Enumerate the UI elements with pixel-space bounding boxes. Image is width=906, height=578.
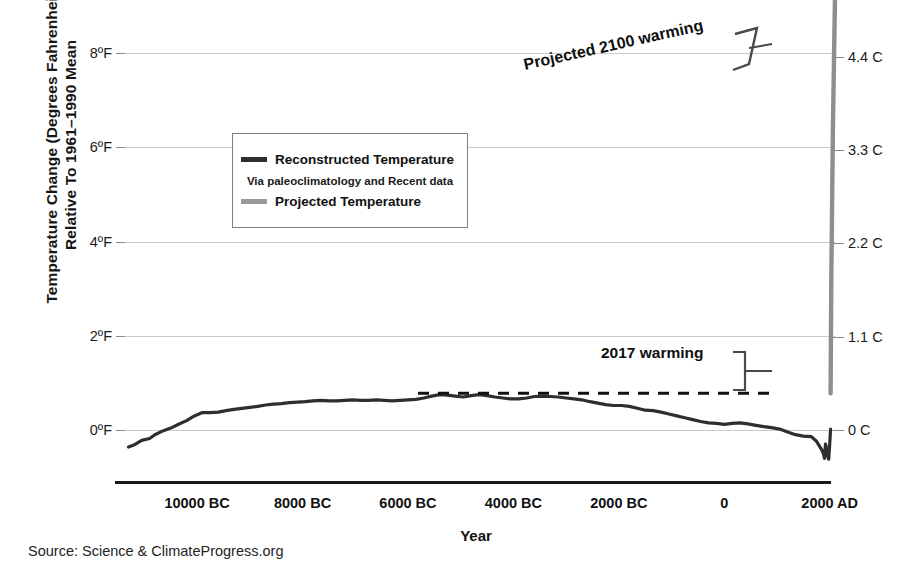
legend-entry-projected: Projected Temperature xyxy=(241,191,459,213)
legend-swatch-projected-icon xyxy=(241,199,267,204)
x-tick-label: 8000 BC xyxy=(274,495,331,511)
chart-page: Temperature Change (Degrees Fahrenheit) … xyxy=(0,0,906,578)
legend-label-projected: Projected Temperature xyxy=(275,194,421,209)
x-axis-title-text: Year xyxy=(414,527,492,544)
source-caption: Source: Science & ClimateProgress.org xyxy=(28,543,283,559)
x-tick-label: 2000 BC xyxy=(590,495,647,511)
legend-swatch-reconstructed-icon xyxy=(241,157,267,162)
x-axis-title: Year xyxy=(0,527,906,544)
x-tick-label: 10000 BC xyxy=(164,495,229,511)
bracket-2100-warming xyxy=(733,28,757,70)
plot-area xyxy=(0,0,906,578)
chart-legend: Reconstructed Temperature Via paleoclima… xyxy=(232,133,468,228)
projected-temperature-line xyxy=(831,0,835,393)
legend-label-reconstructed: Reconstructed Temperature xyxy=(275,152,454,167)
legend-note-reconstructed: Via paleoclimatology and Recent data xyxy=(241,171,459,191)
reconstructed-temperature-line xyxy=(129,395,831,460)
annotation-2017-warming: 2017 warming xyxy=(601,344,704,362)
x-axis-line xyxy=(115,481,831,484)
x-tick-label: 4000 BC xyxy=(485,495,542,511)
x-tick-label: 6000 BC xyxy=(379,495,436,511)
x-tick-label: 0 xyxy=(720,495,728,511)
bracket-2017-warming xyxy=(733,352,745,390)
legend-entry-reconstructed: Reconstructed Temperature xyxy=(241,149,459,171)
x-tick-label: 2000 AD xyxy=(801,495,858,511)
